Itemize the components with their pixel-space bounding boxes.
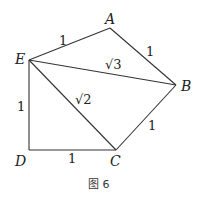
geometry-figure: A B C D E 1 1 √3 √2 1 1 1 图 6 — [0, 0, 201, 198]
length-label-AB: 1 — [146, 44, 154, 59]
length-label-EC: √2 — [75, 92, 92, 107]
vertex-label-A: A — [103, 11, 115, 27]
vertex-label-C: C — [110, 153, 121, 169]
length-label-DC: 1 — [68, 151, 76, 166]
segment-EA — [29, 28, 110, 60]
vertex-label-D: D — [14, 153, 26, 169]
vertex-label-B: B — [180, 78, 191, 94]
segment-EC — [29, 60, 116, 150]
length-label-EA: 1 — [59, 33, 67, 48]
figure-caption: 图 6 — [88, 178, 110, 191]
segment-BC — [116, 85, 176, 150]
length-label-BC: 1 — [148, 118, 156, 133]
vertex-label-E: E — [14, 51, 25, 67]
segment-EB — [29, 60, 176, 85]
length-label-ED: 1 — [17, 99, 25, 114]
length-label-EB: √3 — [105, 57, 122, 72]
